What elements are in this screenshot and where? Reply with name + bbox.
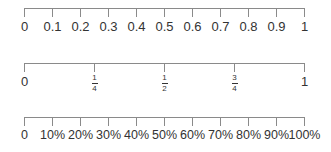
denominator: 2 xyxy=(162,85,166,93)
tick-label: 0.5 xyxy=(155,20,173,33)
tick-mark xyxy=(80,117,81,126)
tick-mark xyxy=(24,63,25,72)
fraction-label: 12 xyxy=(162,74,168,93)
tick-mark xyxy=(52,8,53,17)
tick-mark xyxy=(164,63,165,72)
fraction-label: 34 xyxy=(232,74,238,93)
tick-label: 40% xyxy=(124,129,149,142)
tick-label: 1 xyxy=(301,75,308,88)
tick-mark xyxy=(220,117,221,126)
tick-label: 50% xyxy=(152,129,177,142)
tick-label: 60% xyxy=(180,129,205,142)
tick-mark xyxy=(192,117,193,126)
tick-label: 30% xyxy=(96,129,121,142)
tick-mark xyxy=(108,8,109,17)
tick-mark xyxy=(248,117,249,126)
tick-mark xyxy=(234,63,235,72)
tick-label: 0 xyxy=(21,75,28,88)
denominator: 4 xyxy=(232,85,236,93)
fraction-label: 14 xyxy=(92,74,98,93)
tick-label: 0.8 xyxy=(239,20,257,33)
tick-mark xyxy=(304,8,305,17)
tick-mark xyxy=(24,8,25,17)
tick-label: 90% xyxy=(264,129,289,142)
tick-label: 10% xyxy=(40,129,65,142)
numerator: 1 xyxy=(162,74,166,82)
tick-label: 0 xyxy=(21,129,28,142)
tick-label: 80% xyxy=(236,129,261,142)
tick-label: 20% xyxy=(68,129,93,142)
tick-mark xyxy=(24,117,25,126)
tick-label: 0.7 xyxy=(211,20,229,33)
tick-mark xyxy=(80,8,81,17)
numerator: 3 xyxy=(232,74,236,82)
tick-mark xyxy=(136,8,137,17)
tick-mark xyxy=(304,117,305,126)
tick-label: 0.6 xyxy=(183,20,201,33)
tick-mark xyxy=(108,117,109,126)
numerator: 1 xyxy=(92,74,96,82)
tick-label: 70% xyxy=(208,129,233,142)
tick-label: 100% xyxy=(289,129,321,142)
tick-mark xyxy=(248,8,249,17)
tick-label: 0 xyxy=(21,20,28,33)
tick-mark xyxy=(164,117,165,126)
tick-mark xyxy=(192,8,193,17)
tick-label: 0.4 xyxy=(127,20,145,33)
tick-mark xyxy=(136,117,137,126)
tick-label: 1 xyxy=(301,20,308,33)
tick-mark xyxy=(220,8,221,17)
tick-label: 0.2 xyxy=(71,20,89,33)
tick-mark xyxy=(164,8,165,17)
tick-mark xyxy=(276,117,277,126)
tick-mark xyxy=(94,63,95,72)
tick-label: 0.3 xyxy=(99,20,117,33)
tick-mark xyxy=(304,63,305,72)
tick-mark xyxy=(52,117,53,126)
tick-label: 0.9 xyxy=(267,20,285,33)
tick-mark xyxy=(276,8,277,17)
denominator: 4 xyxy=(92,85,96,93)
tick-label: 0.1 xyxy=(43,20,61,33)
